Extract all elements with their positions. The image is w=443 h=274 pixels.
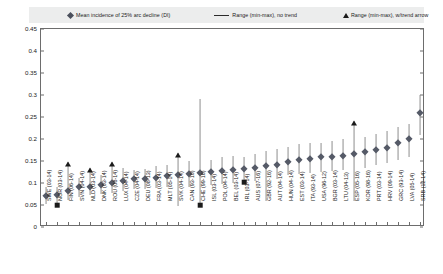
y-axis-tick-mark [41,117,44,118]
x-axis-tick-mark [211,222,212,225]
y-axis-tick-label: 0.3 [28,92,41,98]
x-axis-tick-label: CAN (93-10) [190,171,195,201]
y-axis-tick-mark-right [420,205,423,206]
x-axis-tick-label: EST (03-14) [300,172,305,201]
x-axis-tick-label: KOR (98-16) [366,170,371,201]
mean-diamond-marker [273,161,280,168]
triangle-marker-icon [343,13,349,18]
y-axis-tick-label: 0.15 [25,158,41,164]
x-axis-tick-mark [79,222,80,225]
x-axis-tick-mark [68,222,69,225]
x-axis-tick-mark [277,222,278,225]
x-axis-tick-label: LTU (04-13) [344,172,349,201]
x-axis-tick-mark [112,222,113,225]
x-axis-tick-label: CZE (04-14) [135,171,140,201]
x-axis-tick-label: PRT (03-14) [377,171,382,201]
x-axis-tick-mark [310,222,311,225]
legend-label-range-no-trend: Range (min-max), no trend [232,12,297,18]
y-axis-tick-mark-right [420,29,423,30]
x-axis-tick-label: SVK (04-14) [179,171,184,201]
x-axis-tick-mark [123,222,124,225]
y-axis-tick-mark [41,139,44,140]
x-axis-tick-label: NLD (03-14) [91,171,96,201]
x-axis-tick-mark [321,222,322,225]
mean-diamond-marker [383,144,390,151]
x-axis-tick-label: AUT (04-14) [278,171,283,201]
mean-diamond-marker [405,135,412,142]
mean-diamond-marker [339,152,346,159]
x-axis-tick-mark [134,222,135,225]
x-axis-tick-mark [266,222,267,225]
x-axis-tick-label: MLT (05-14) [168,172,173,201]
y-axis-tick-mark [41,95,44,96]
y-axis-tick-label: 0.4 [28,48,41,54]
x-axis-tick-label: LVA (05-14) [410,173,415,201]
x-axis-tick-mark [57,222,58,225]
x-axis-tick-mark [101,222,102,225]
y-axis-tick-mark-right [420,51,423,52]
y-axis-tick-label: 0.45 [25,26,41,32]
y-axis-tick-mark [41,51,44,52]
x-axis-tick-label: POL (04-14) [223,171,228,201]
x-axis-tick-mark [200,222,201,225]
x-axis-tick-label: ROU (08-14) [113,170,118,201]
mean-diamond-marker [295,156,302,163]
y-axis-tick-label: 0.05 [25,202,41,208]
x-axis-tick-label: DNK (03-14) [102,171,107,201]
x-axis-tick-mark [343,222,344,225]
x-axis-tick-mark [222,222,223,225]
mean-diamond-marker [262,163,269,170]
x-axis-tick-mark [90,222,91,225]
y-axis-tick-mark-right [420,117,423,118]
y-axis-tick-mark [41,161,44,162]
y-axis-tick-mark-right [420,73,423,74]
y-axis-tick-label: 0.25 [25,114,41,120]
x-axis-tick-label: ITA (93-14) [311,174,316,201]
x-axis-tick-label: LUX (04-14) [124,171,129,201]
x-axis-tick-mark [46,222,47,225]
x-axis-tick-label: GBR (92-16) [267,170,272,201]
x-axis-tick-label: USA (96-12) [322,171,327,201]
y-axis-tick-mark [41,73,44,74]
trend-arrow-marker [65,161,71,166]
x-axis-tick-label: GRC (93-14) [399,170,404,201]
x-axis-tick-mark [332,222,333,225]
x-axis-tick-mark [233,222,234,225]
mean-diamond-marker [317,154,324,161]
trend-arrow-marker [175,153,181,158]
x-axis-tick-mark [376,222,377,225]
x-axis-tick-mark [167,222,168,225]
x-axis-tick-label: CHE (99-16) [201,171,206,201]
trend-arrow-marker [109,161,115,166]
legend-item-range-trend: Range (min-max), w/trend arrow [343,12,428,18]
x-axis-tick-label: DEU (08-13) [146,171,151,201]
mean-diamond-marker [284,158,291,165]
x-axis-tick-mark [255,222,256,225]
x-axis-tick-label: BEL (03-14) [234,172,239,201]
x-axis-tick-label: BGR (03-14) [333,170,338,201]
x-axis-tick-label: FIN (06-14) [69,173,74,201]
y-axis-tick-label: 0.35 [25,70,41,76]
legend-item-range-no-trend: Range (min-max), no trend [214,12,297,18]
y-axis-tick-mark-right [420,139,423,140]
x-axis-tick-label: HRV (09-14) [388,171,393,201]
x-axis-tick-mark [156,222,157,225]
x-axis-tick-label: SRB (12-14) [421,171,426,201]
y-axis-tick-label: 0.1 [28,180,41,186]
x-axis-tick-mark [354,222,355,225]
y-axis-tick-mark-right [420,227,423,228]
range-min-square-marker [198,203,203,208]
x-axis-tick-mark [398,222,399,225]
y-axis-tick-mark [41,183,44,184]
chart-legend: Mean incidence of 25% arc decline (DI) R… [29,7,424,23]
trend-arrow-marker [351,121,357,126]
legend-label-mean: Mean incidence of 25% arc decline (DI) [76,12,170,18]
y-axis-tick-mark [41,205,44,206]
x-axis-tick-label: AUS (07-16) [256,171,261,201]
legend-item-mean: Mean incidence of 25% arc decline (DI) [68,12,170,18]
x-axis-tick-label: NOR (03-14) [58,170,63,201]
x-axis-tick-mark [299,222,300,225]
x-axis-tick-label: IRL (03-14) [245,174,250,201]
x-axis-tick-mark [420,222,421,225]
y-axis-tick-mark-right [420,95,423,96]
